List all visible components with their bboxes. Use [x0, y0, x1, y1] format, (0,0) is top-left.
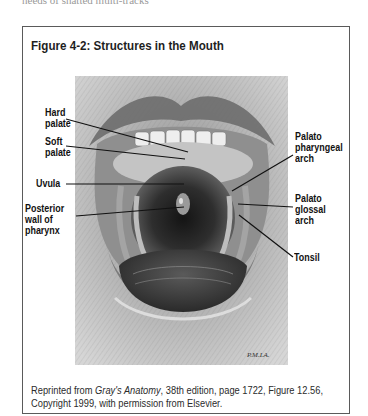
- label-posterior-wall-of-pharynx: Posterior wall of pharynx: [25, 203, 64, 236]
- label-palatoglossal-arch: Palato glossal arch: [295, 193, 326, 226]
- label-soft-palate: Soft palate: [45, 136, 71, 158]
- label-uvula: Uvula: [36, 178, 60, 189]
- label-line: Tonsil: [294, 252, 320, 263]
- caption-source-title: Gray's Anatomy: [95, 385, 161, 396]
- caption-line-1: Reprinted from Gray's Anatomy, 38th edit…: [31, 385, 321, 398]
- label-line: arch: [295, 153, 343, 164]
- label-palatopharyngeal-arch: Palato pharyngeal arch: [295, 131, 343, 164]
- caption-prefix: Reprinted from: [31, 385, 95, 396]
- caption-line1-rest: , 38th edition, page 1722, Figure 12.56,: [161, 385, 323, 396]
- figure-title: Figure 4-2: Structures in the Mouth: [31, 38, 224, 53]
- label-line: palate: [45, 147, 71, 158]
- figure-box: Figure 4-2: Structures in the Mouth: [22, 26, 350, 414]
- label-tonsil: Tonsil: [294, 252, 320, 263]
- caption-line-2: Copyright 1999, with permission from Els…: [31, 398, 321, 411]
- figure-caption: Reprinted from Gray's Anatomy, 38th edit…: [31, 385, 321, 410]
- mouth-illustration: P.M.LA.: [75, 76, 288, 365]
- cut-off-text-line: needs of shatted multi-tracks: [22, 0, 149, 6]
- label-line: Uvula: [36, 178, 60, 189]
- label-line: arch: [295, 215, 326, 226]
- label-line: palate: [45, 118, 71, 129]
- label-hard-palate: Hard palate: [45, 107, 71, 129]
- svg-text:P.M.LA.: P.M.LA.: [246, 351, 270, 359]
- label-line: pharynx: [25, 225, 64, 236]
